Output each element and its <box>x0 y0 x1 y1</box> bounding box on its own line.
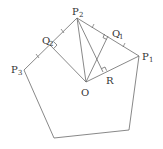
label-p2: P 2 <box>72 6 83 19</box>
label-p3: P 3 <box>11 64 22 77</box>
label-o: O <box>81 87 89 98</box>
right-angle-q2-icon <box>54 42 58 49</box>
svg-text:2: 2 <box>79 11 83 19</box>
svg-text:P: P <box>72 6 79 17</box>
label-r: R <box>106 75 114 86</box>
geometry-diagram: P 2 P 1 P 3 Q 1 Q 2 O R <box>0 0 163 149</box>
label-p1: P 1 <box>142 51 153 64</box>
label-q2: Q 2 <box>42 35 53 48</box>
svg-text:1: 1 <box>149 56 153 64</box>
segment-o-q2 <box>50 45 86 82</box>
svg-text:2: 2 <box>49 40 53 48</box>
svg-text:P: P <box>11 64 18 75</box>
svg-text:P: P <box>142 51 149 62</box>
label-q1: Q 1 <box>112 28 123 41</box>
svg-text:1: 1 <box>119 33 123 41</box>
svg-text:3: 3 <box>18 69 22 77</box>
